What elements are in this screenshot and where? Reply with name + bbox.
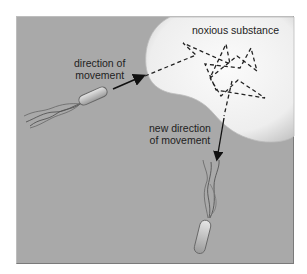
bacterium-body-icon [77, 85, 108, 106]
flagella-icon [208, 162, 212, 218]
bacterium-initial [24, 85, 109, 128]
noxious-substance-label: noxious substance [192, 24, 279, 36]
direction-of-movement-label: direction of movement [74, 57, 125, 81]
bacterium-body-icon [193, 219, 212, 255]
bacterium-new [193, 160, 219, 255]
new-direction-label: new direction of movement [149, 122, 211, 146]
new-direction-arrow [217, 118, 224, 159]
chemotaxis-diagram: noxious substance direction of movement … [0, 0, 307, 274]
